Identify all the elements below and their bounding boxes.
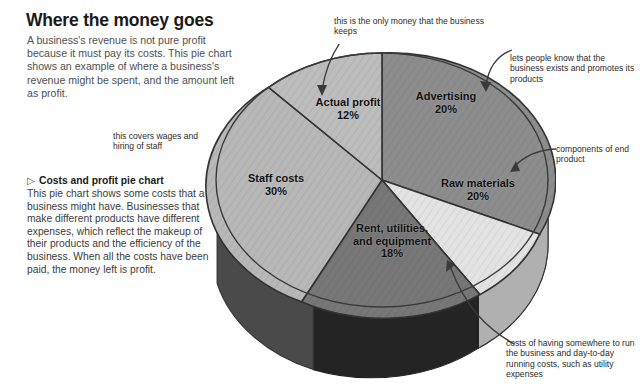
pie-label-raw-materials: Raw materials 20% bbox=[420, 177, 536, 202]
pie-label-rent-name-1: Rent, utilities, bbox=[329, 222, 455, 235]
pie-label-staff-costs-value: 30% bbox=[225, 185, 327, 198]
pie-chart bbox=[196, 44, 556, 384]
triangle-marker-icon: ▷ bbox=[27, 175, 35, 186]
pie-label-rent: Rent, utilities, and equipment 18% bbox=[329, 222, 455, 260]
pie-label-staff-costs: Staff costs 30% bbox=[225, 172, 327, 197]
pie-label-actual-profit-name: Actual profit bbox=[300, 96, 396, 109]
pie-label-actual-profit-value: 12% bbox=[300, 109, 396, 122]
callout-advertising: lets people know that the business exist… bbox=[510, 53, 638, 84]
caption-heading-text: Costs and profit pie chart bbox=[39, 175, 164, 186]
pie-label-advertising-value: 20% bbox=[396, 103, 496, 116]
callout-actual-profit: this is the only money that the business… bbox=[334, 16, 494, 37]
pie-label-staff-costs-name: Staff costs bbox=[225, 172, 327, 185]
callout-raw-materials: components of end product bbox=[556, 144, 638, 165]
callout-rent: costs of having somewhere to run the bus… bbox=[506, 338, 640, 380]
caption-body: This pie chart shows some costs that a b… bbox=[27, 188, 223, 276]
pie-label-advertising-name: Advertising bbox=[396, 90, 496, 103]
callout-staff-costs: this covers wages and hiring of staff bbox=[113, 131, 218, 152]
pie-label-actual-profit: Actual profit 12% bbox=[300, 96, 396, 121]
pie-label-advertising: Advertising 20% bbox=[396, 90, 496, 115]
pie-label-raw-materials-value: 20% bbox=[420, 190, 536, 203]
pie-label-rent-value: 18% bbox=[329, 247, 455, 260]
pie-label-rent-name-2: and equipment bbox=[329, 235, 455, 248]
pie-label-raw-materials-name: Raw materials bbox=[420, 177, 536, 190]
page-title: Where the money goes bbox=[26, 10, 214, 31]
illustration-canvas: Where the money goes A business's revenu… bbox=[0, 0, 640, 384]
